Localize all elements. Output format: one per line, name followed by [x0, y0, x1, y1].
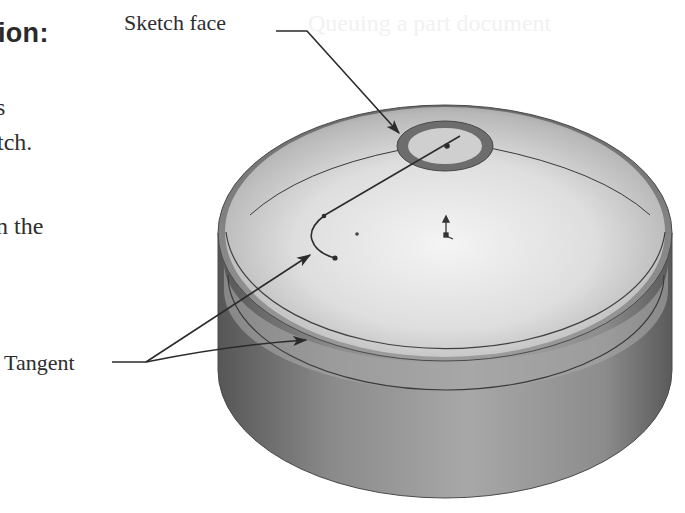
- cad-part-figure: [0, 0, 685, 513]
- sketch-point: [355, 232, 359, 236]
